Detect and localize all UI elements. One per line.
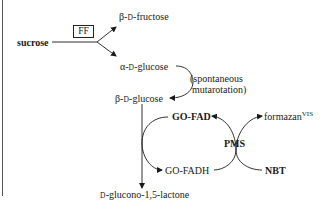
beta-fructose-label: β-D-fructose — [119, 11, 169, 23]
lactone-label: D-glucono-1,5-lactone — [100, 189, 189, 201]
reaction-diagram: FF sucrose β-D-fructose α-D-glucose (spo… — [0, 0, 325, 205]
sucrose-label: sucrose — [17, 37, 48, 48]
mutarotation-note-line2: mutarotation) — [192, 84, 246, 95]
beta-glucose-label: β-D-glucose — [115, 93, 163, 105]
formazan-label: formazanVIS — [264, 111, 313, 122]
enzyme-box-ff: FF — [73, 25, 94, 38]
nbt-label: NBT — [265, 165, 286, 176]
mutarotation-note-line1: (spontaneous — [190, 73, 243, 84]
pms-label: PMS — [224, 138, 245, 149]
go-fad-reduction-arrow — [142, 117, 168, 170]
arrow-to-fructose — [97, 27, 116, 42]
go-fad-label: GO-FAD — [172, 111, 211, 122]
go-fadh-label: GO-FADH — [165, 165, 209, 176]
alpha-glucose-label: α-D-glucose — [120, 61, 168, 73]
arrow-to-alpha-glucose — [97, 42, 116, 56]
